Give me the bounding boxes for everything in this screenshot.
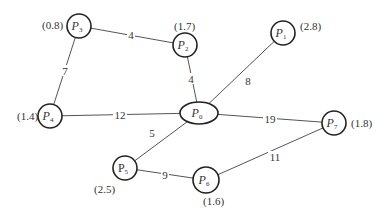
edge-weight-label: 8 xyxy=(245,75,251,87)
graph-svg: 474812519911 P0P1P2P3P4P5P6P7 (2.8)(1.7)… xyxy=(0,0,386,219)
graph-diagram: 474812519911 P0P1P2P3P4P5P6P7 (2.8)(1.7)… xyxy=(0,0,386,219)
node-p0: P0 xyxy=(180,102,218,124)
node-weight-label: (0.8) xyxy=(42,19,63,32)
node-weight-label: (2.5) xyxy=(94,183,115,196)
node-p3: P3 xyxy=(67,14,91,38)
node-weight-label: (1.6) xyxy=(203,195,224,208)
edge-weight-label: 12 xyxy=(115,109,126,121)
node-weight-label: (2.8) xyxy=(300,20,321,33)
edge-weight-label: 4 xyxy=(128,29,134,41)
node-p6: P6 xyxy=(193,167,219,193)
edge-weight-label: 7 xyxy=(62,65,68,77)
node-p4: P4 xyxy=(38,104,62,128)
edge-labels-layer: 474812519911 xyxy=(61,29,282,181)
edge-weight-label: 5 xyxy=(149,127,155,139)
edge-weight-label: 4 xyxy=(188,73,194,85)
edge-weight-label: 11 xyxy=(270,151,281,163)
edge-weight-label: 9 xyxy=(162,169,168,181)
node-p1: P1 xyxy=(271,21,295,45)
nodes-layer: P0P1P2P3P4P5P6P7 xyxy=(38,14,346,193)
node-p2: P2 xyxy=(173,33,197,57)
node-p5: P5 xyxy=(113,156,137,180)
node-p7: P7 xyxy=(322,111,346,135)
node-weight-label: (1.8) xyxy=(351,117,372,130)
node-weight-label: (1.4) xyxy=(17,110,38,123)
edge-weight-label: 19 xyxy=(265,113,277,125)
edge-p1-p0 xyxy=(199,33,283,113)
node-weight-label: (1.7) xyxy=(174,20,195,33)
